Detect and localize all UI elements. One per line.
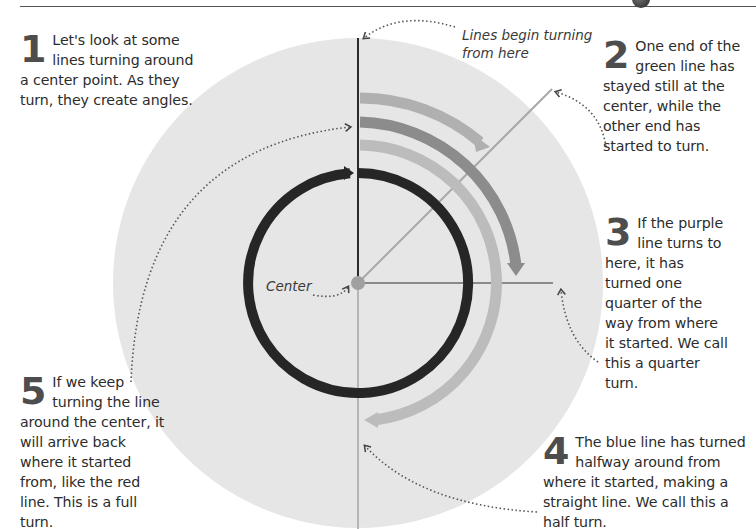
start-callout-label: Lines begin turning from here (462, 26, 592, 62)
step-5: 5 If we keep turning the line around the… (20, 372, 170, 529)
step-number: 3 (605, 215, 631, 249)
center-dot (351, 276, 365, 290)
step-4: 4 The blue line has turned halfway aroun… (543, 432, 756, 529)
step-2: 2 One end of the green line has stayed s… (603, 36, 753, 156)
callout-start (364, 21, 455, 38)
step-number: 2 (603, 38, 629, 72)
step-number: 4 (543, 434, 569, 468)
step-number: 5 (20, 374, 46, 408)
center-label: Center (266, 277, 311, 295)
step-3: 3 If the purple line turns to here, it h… (605, 213, 729, 393)
step-number: 1 (20, 32, 46, 66)
step-1: 1 Let's look at some lines turning aroun… (20, 30, 200, 110)
callout-green (556, 92, 606, 147)
